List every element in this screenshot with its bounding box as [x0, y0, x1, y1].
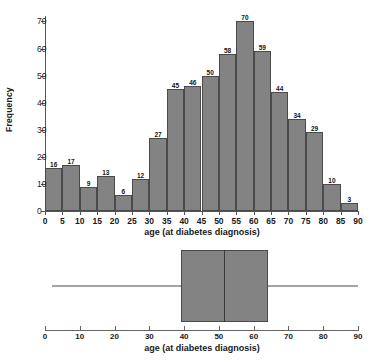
histogram-bar: 70: [236, 21, 253, 211]
boxplot-x-tick-label: 90: [354, 332, 363, 341]
histogram-x-tick-label: 55: [232, 216, 241, 226]
histogram-bar-value-label: 13: [102, 169, 109, 176]
boxplot-x-tick-mark: [358, 326, 359, 330]
histogram-x-tick-label: 20: [110, 216, 119, 226]
boxplot-x-axis-title: age (at diabetes diagnosis): [45, 343, 359, 353]
histogram-bar: 45: [167, 89, 184, 211]
histogram-bar-value-label: 29: [311, 125, 318, 132]
histogram-bar: 12: [132, 179, 149, 212]
boxplot-x-tick-mark: [45, 326, 46, 330]
histogram-bar-value-label: 12: [137, 172, 144, 179]
histogram-bar: 10: [323, 184, 340, 211]
histogram-x-tick-mark: [288, 211, 289, 215]
histogram-bar: 17: [62, 165, 79, 211]
histogram-bar: 46: [184, 86, 201, 211]
histogram-bar-value-label: 9: [87, 180, 91, 187]
histogram-x-tick-label: 45: [197, 216, 206, 226]
histogram-x-tick-mark: [97, 211, 98, 215]
histogram-x-tick-label: 25: [127, 216, 136, 226]
histogram-bar-value-label: 3: [347, 196, 351, 203]
histogram-bar-value-label: 27: [154, 131, 161, 138]
boxplot-x-tick-mark: [184, 326, 185, 330]
histogram-bar: 34: [288, 119, 305, 211]
histogram-panel: Frequency 161791361227454650587059443429…: [0, 0, 375, 245]
boxplot-x-tick-mark: [254, 326, 255, 330]
histogram-bar: 44: [271, 92, 288, 211]
histogram-x-tick-mark: [45, 211, 46, 215]
histogram-x-tick-mark: [149, 211, 150, 215]
histogram-bar-value-label: 10: [328, 177, 335, 184]
histogram-bar: 58: [219, 54, 236, 211]
histogram-x-tick-label: 10: [75, 216, 84, 226]
histogram-x-tick-label: 80: [318, 216, 327, 226]
boxplot-panel: 0102030405060708090 age (at diabetes dia…: [0, 248, 375, 363]
histogram-x-tick-mark: [184, 211, 185, 215]
boxplot-x-tick-mark: [149, 326, 150, 330]
histogram-x-axis-title: age (at diabetes diagnosis): [45, 227, 359, 237]
histogram-x-tick-mark: [167, 211, 168, 215]
boxplot-area: [45, 250, 358, 322]
boxplot-x-tick-mark: [115, 326, 116, 330]
histogram-x-tick-mark: [254, 211, 255, 215]
histogram-x-tick-mark: [271, 211, 272, 215]
histogram-y-axis-title: Frequency: [2, 70, 16, 150]
histogram-bar-value-label: 46: [189, 79, 196, 86]
boxplot-x-tick-mark: [323, 326, 324, 330]
histogram-bar-value-label: 45: [172, 82, 179, 89]
histogram-x-tick-mark: [341, 211, 342, 215]
histogram-bar-value-label: 16: [50, 161, 57, 168]
histogram-x-tick-mark: [306, 211, 307, 215]
boxplot-median-line: [224, 250, 225, 322]
histogram-plot-area: 161791361227454650587059443429103: [45, 16, 358, 211]
histogram-bar-value-label: 58: [224, 47, 231, 54]
histogram-x-tick-label: 70: [284, 216, 293, 226]
boxplot-x-tick-mark: [219, 326, 220, 330]
boxplot-x-tick-label: 80: [319, 332, 328, 341]
histogram-bar-value-label: 59: [259, 44, 266, 51]
boxplot-x-tick-label: 30: [145, 332, 154, 341]
histogram-x-tick-mark: [80, 211, 81, 215]
histogram-bar: 16: [45, 168, 62, 211]
histogram-bar: 50: [202, 76, 219, 211]
boxplot-x-tick-label: 60: [249, 332, 258, 341]
histogram-x-tick-label: 5: [60, 216, 65, 226]
histogram-bar: 13: [97, 176, 114, 211]
histogram-bar: 6: [115, 195, 132, 211]
histogram-x-tick-label: 65: [266, 216, 275, 226]
boxplot-x-tick-label: 10: [75, 332, 84, 341]
histogram-bar: 59: [254, 51, 271, 211]
histogram-x-tick-label: 90: [353, 216, 362, 226]
histogram-x-tick-label: 0: [43, 216, 48, 226]
histogram-x-tick-mark: [132, 211, 133, 215]
histogram-x-tick-label: 15: [92, 216, 101, 226]
histogram-x-tick-label: 50: [214, 216, 223, 226]
histogram-bar-value-label: 50: [207, 69, 214, 76]
histogram-bar: 9: [80, 187, 97, 211]
boxplot-x-tick-label: 70: [284, 332, 293, 341]
boxplot-x-tick-label: 40: [180, 332, 189, 341]
boxplot-x-tick-label: 50: [214, 332, 223, 341]
histogram-bar-value-label: 34: [294, 112, 301, 119]
histogram-bar-value-label: 6: [121, 188, 125, 195]
histogram-x-tick-label: 60: [249, 216, 258, 226]
histogram-x-tick-mark: [236, 211, 237, 215]
histogram-x-tick-mark: [62, 211, 63, 215]
histogram-bar: 27: [149, 138, 166, 211]
histogram-bar-value-label: 44: [276, 85, 283, 92]
histogram-x-tick-label: 35: [162, 216, 171, 226]
histogram-x-tick-mark: [115, 211, 116, 215]
boxplot-x-tick-label: 20: [110, 332, 119, 341]
histogram-bar: 3: [341, 203, 358, 211]
histogram-bar-value-label: 17: [67, 158, 74, 165]
histogram-x-tick-mark: [202, 211, 203, 215]
histogram-bar-value-label: 70: [241, 14, 248, 21]
boxplot-x-tick-label: 0: [43, 332, 47, 341]
boxplot-x-tick-mark: [80, 326, 81, 330]
histogram-x-tick-mark: [323, 211, 324, 215]
boxplot-axis-line: [45, 330, 359, 331]
histogram-x-tick-mark: [358, 211, 359, 215]
histogram-bar: 29: [306, 132, 323, 211]
boxplot-x-tick-mark: [288, 326, 289, 330]
histogram-x-tick-label: 40: [179, 216, 188, 226]
histogram-x-tick-label: 75: [301, 216, 310, 226]
